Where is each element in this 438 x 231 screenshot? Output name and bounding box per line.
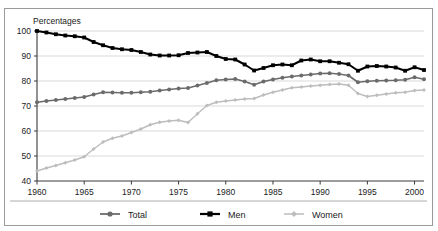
data-point-marker — [44, 166, 48, 170]
data-point-marker — [120, 134, 124, 138]
legend-swatch-marker — [107, 211, 112, 216]
data-point-marker — [139, 90, 143, 94]
legend-label: Men — [228, 210, 246, 220]
legend-item-women[interactable]: Women — [284, 210, 343, 220]
data-point-marker — [45, 31, 49, 35]
series-line — [37, 73, 424, 102]
legend-label: Total — [128, 210, 147, 220]
y-tick-label: 100 — [17, 26, 31, 36]
data-point-marker — [337, 61, 341, 65]
data-point-marker — [186, 51, 190, 55]
data-point-marker — [299, 59, 303, 63]
line-chart: 405060708090100 196019651970197519801985… — [0, 0, 438, 231]
data-point-marker — [394, 78, 398, 82]
series-lines — [35, 29, 426, 173]
data-point-marker — [148, 123, 152, 127]
data-point-marker — [309, 73, 313, 77]
data-point-marker — [243, 80, 247, 84]
data-point-marker — [384, 92, 388, 96]
data-point-marker — [167, 54, 171, 58]
data-point-marker — [252, 69, 256, 73]
data-point-marker — [384, 65, 388, 69]
data-point-marker — [413, 89, 417, 93]
y-tick-label: 50 — [22, 151, 32, 161]
data-point-marker — [375, 79, 379, 83]
data-point-marker — [158, 120, 162, 124]
data-point-marker — [177, 53, 181, 57]
y-tick-label: 40 — [22, 176, 32, 186]
data-point-marker — [233, 77, 237, 81]
data-point-marker — [309, 84, 313, 88]
data-point-marker — [280, 88, 284, 92]
data-point-marker — [318, 59, 322, 63]
data-point-marker — [403, 90, 407, 94]
x-tick-label: 1985 — [264, 187, 283, 197]
chart-legend: TotalMenWomen — [10, 201, 427, 220]
data-point-marker — [262, 93, 266, 97]
x-tick-label: 1970 — [122, 187, 141, 197]
data-point-marker — [328, 83, 332, 87]
data-point-marker — [63, 97, 67, 101]
data-point-marker — [167, 119, 171, 123]
data-point-marker — [158, 89, 162, 93]
data-point-marker — [129, 91, 133, 95]
y-tick-label: 70 — [22, 101, 32, 111]
data-point-marker — [139, 50, 143, 54]
data-point-marker — [271, 63, 275, 67]
data-point-marker — [224, 99, 228, 103]
screenshot-root: Percentages 405060708090100 196019651970… — [0, 0, 438, 231]
data-point-marker — [394, 91, 398, 95]
data-point-marker — [271, 78, 275, 82]
data-point-marker — [252, 83, 256, 87]
data-point-marker — [233, 98, 237, 102]
data-point-marker — [243, 63, 247, 67]
data-point-marker — [413, 75, 417, 79]
data-point-marker — [384, 79, 388, 83]
data-point-marker — [148, 53, 152, 57]
data-point-marker — [224, 57, 228, 61]
y-tick-labels: 405060708090100 — [17, 26, 31, 186]
x-tick-label: 1990 — [311, 187, 330, 197]
data-point-marker — [356, 69, 360, 73]
legend-swatch-marker — [207, 211, 212, 216]
data-point-marker — [82, 36, 86, 40]
data-point-marker — [403, 78, 407, 82]
y-tick-label: 90 — [22, 51, 32, 61]
data-point-marker — [120, 91, 124, 95]
data-point-marker — [214, 100, 218, 104]
y-tick-label: 80 — [22, 76, 32, 86]
data-point-marker — [280, 76, 284, 80]
x-tick-label: 1995 — [358, 187, 377, 197]
data-point-marker — [403, 69, 407, 73]
legend-swatch-marker — [291, 211, 297, 217]
data-point-marker — [375, 64, 379, 68]
data-point-marker — [394, 66, 398, 70]
data-point-marker — [196, 51, 200, 55]
data-point-marker — [54, 32, 58, 36]
x-tick-label: 2000 — [405, 187, 424, 197]
data-point-marker — [63, 161, 67, 165]
data-point-marker — [82, 95, 86, 99]
data-point-marker — [299, 85, 303, 89]
data-point-marker — [356, 80, 360, 84]
legend-item-total[interactable]: Total — [100, 210, 147, 220]
data-point-marker — [290, 75, 294, 79]
legend-item-men[interactable]: Men — [200, 210, 246, 220]
x-tick-label: 1980 — [216, 187, 235, 197]
data-point-marker — [271, 90, 275, 94]
data-point-marker — [101, 90, 105, 94]
x-tick-label: 1960 — [28, 187, 47, 197]
data-point-marker — [422, 68, 426, 72]
data-point-marker — [111, 91, 115, 95]
data-point-marker — [299, 74, 303, 78]
data-point-marker — [214, 78, 218, 82]
y-tick-label: 60 — [22, 126, 32, 136]
data-point-marker — [177, 118, 181, 122]
data-point-marker — [111, 46, 115, 50]
data-point-marker — [422, 88, 426, 92]
data-point-marker — [413, 65, 417, 69]
data-point-marker — [365, 79, 369, 83]
data-point-marker — [328, 59, 332, 63]
data-point-marker — [328, 71, 332, 75]
data-point-marker — [73, 96, 77, 100]
